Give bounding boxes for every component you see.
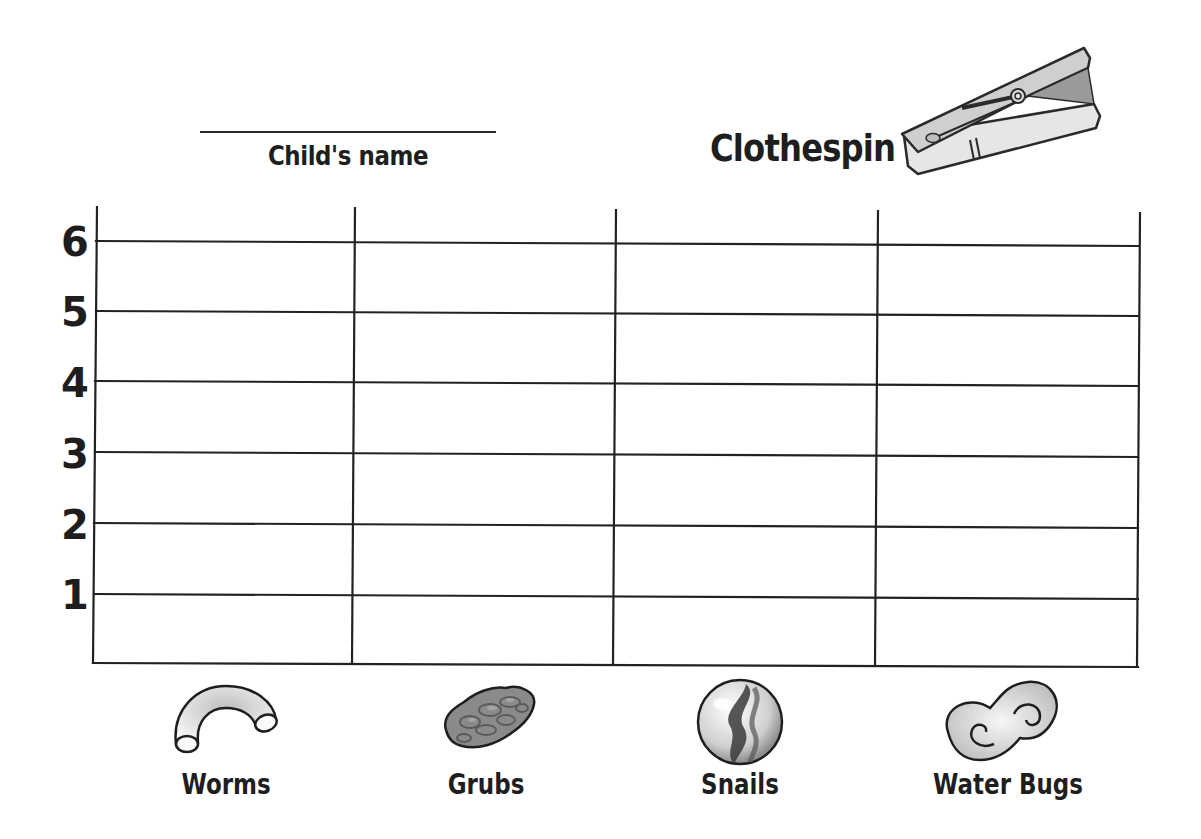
raisin-icon bbox=[440, 682, 538, 752]
macaroni-elbow-icon bbox=[170, 680, 282, 756]
y-tick-2: 2 bbox=[60, 505, 90, 545]
y-tick-4: 4 bbox=[60, 363, 90, 403]
gridline-3 bbox=[95, 452, 1138, 457]
y-tick-5: 5 bbox=[60, 292, 90, 332]
gridline-2 bbox=[94, 523, 1138, 528]
baseline bbox=[93, 663, 1138, 667]
right-edge-line bbox=[1137, 213, 1140, 667]
y-tick-6: 6 bbox=[60, 222, 90, 262]
gridline-6 bbox=[96, 241, 1138, 246]
marble-icon bbox=[694, 676, 786, 768]
gridline-4 bbox=[95, 381, 1138, 386]
category-label-snails: Snails bbox=[642, 768, 839, 801]
y-tick-3: 3 bbox=[60, 434, 90, 474]
category-label-water-bugs: Water Bugs bbox=[910, 768, 1107, 801]
pasta-swirl-icon bbox=[940, 678, 1064, 766]
gridline-5 bbox=[96, 311, 1138, 316]
category-label-worms: Worms bbox=[128, 768, 325, 801]
gridline-1 bbox=[94, 594, 1138, 599]
y-tick-1: 1 bbox=[60, 575, 90, 615]
category-label-grubs: Grubs bbox=[388, 768, 585, 801]
